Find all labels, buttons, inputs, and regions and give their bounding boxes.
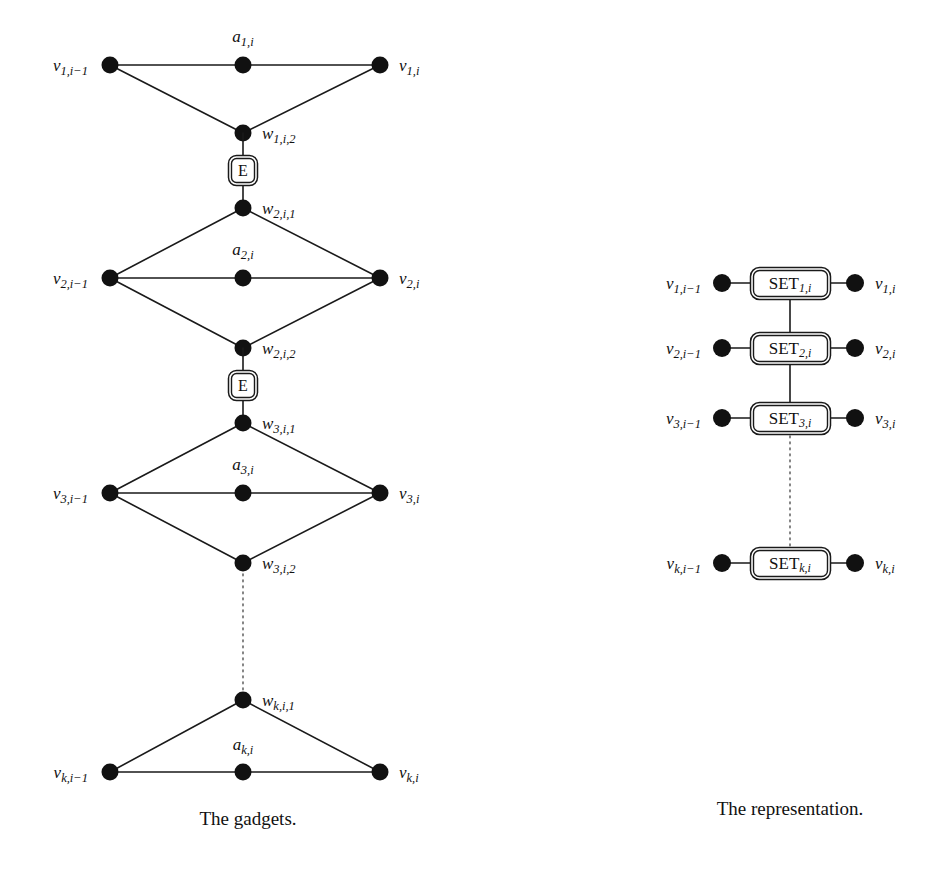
e-box-1-label: E	[238, 162, 248, 179]
label-w-3-i-2: w3,i,2	[262, 554, 296, 576]
node-v-3-iprev[interactable]	[102, 485, 119, 502]
edge-v2-w2i2	[243, 278, 380, 348]
label-rep-v-k-i: vk,i	[875, 554, 895, 576]
label-rep-v-1-i: v1,i	[875, 274, 896, 296]
edge-v3-w3i2	[243, 493, 380, 563]
edge-w2i1-v2	[243, 208, 380, 278]
edge-w2i1-v2prev	[110, 208, 243, 278]
node-rep-v-1-i[interactable]	[846, 274, 864, 292]
node-rep-v-2-iprev[interactable]	[713, 339, 731, 357]
caption-representation: The representation.	[717, 798, 864, 819]
node-a-k-i[interactable]	[235, 764, 252, 781]
node-w-k-i-1[interactable]	[235, 692, 252, 709]
label-rep-v-2-i: v2,i	[875, 339, 896, 361]
node-rep-v-1-iprev[interactable]	[713, 274, 731, 292]
set-row-1: SET1,i v1,i−1 v1,i	[666, 268, 896, 300]
node-a-1-i[interactable]	[235, 57, 252, 74]
label-rep-v-3-iprev: v3,i−1	[666, 409, 701, 431]
label-w-k-i-1: wk,i,1	[262, 691, 295, 713]
label-a-1-i: a1,i	[232, 27, 254, 49]
label-v-k-i: vk,i	[399, 763, 419, 785]
set-row-2: SET2,i v2,i−1 v2,i	[666, 333, 896, 365]
node-v-1-i[interactable]	[372, 57, 389, 74]
label-v-1-iprev: v1,i−1	[53, 56, 88, 78]
edge-v1prev-w112	[110, 65, 243, 133]
node-v-2-i[interactable]	[372, 270, 389, 287]
label-w-3-i-1: w3,i,1	[262, 414, 296, 436]
label-v-k-iprev: vk,i−1	[54, 763, 88, 785]
label-rep-v-2-iprev: v2,i−1	[666, 339, 701, 361]
edge-v1-w112	[243, 65, 380, 133]
edge-w3i1-v3	[243, 423, 380, 493]
label-w-1-i-2: w1,i,2	[262, 124, 296, 146]
label-v-2-iprev: v2,i−1	[53, 269, 88, 291]
node-v-k-i[interactable]	[372, 764, 389, 781]
label-v-3-i: v3,i	[399, 484, 420, 506]
e-box-2[interactable]: E	[229, 348, 258, 423]
caption-gadgets: The gadgets.	[199, 808, 296, 829]
label-v-2-i: v2,i	[399, 269, 420, 291]
label-a-2-i: a2,i	[232, 240, 254, 262]
gadget-1: v1,i−1 v1,i a1,i w1,i,2	[53, 27, 420, 146]
gadget-k: wk,i,1 vk,i−1 vk,i ak,i	[54, 691, 420, 785]
label-rep-v-1-iprev: v1,i−1	[666, 274, 701, 296]
label-a-3-i: a3,i	[232, 455, 254, 477]
node-v-3-i[interactable]	[372, 485, 389, 502]
node-rep-v-2-i[interactable]	[846, 339, 864, 357]
label-w-2-i-2: w2,i,2	[262, 339, 296, 361]
set-row-k: SETk,i vk,i−1 vk,i	[667, 548, 896, 580]
label-w-2-i-1: w2,i,1	[262, 199, 296, 221]
node-v-k-iprev[interactable]	[102, 764, 119, 781]
gadget-3: w3,i,1 v3,i−1 v3,i a3,i w3,i,2	[53, 414, 420, 576]
label-a-k-i: ak,i	[233, 735, 254, 757]
node-w-3-i-1[interactable]	[235, 415, 252, 432]
label-rep-v-k-iprev: vk,i−1	[667, 554, 701, 576]
label-v-1-i: v1,i	[399, 56, 420, 78]
edge-wki1-vk	[243, 700, 380, 772]
edge-v2prev-w2i2	[110, 278, 243, 348]
node-w-2-i-1[interactable]	[235, 200, 252, 217]
edge-wki1-vkprev	[110, 700, 243, 772]
gadget-2: w2,i,1 v2,i−1 v2,i a2,i w2,i,2	[53, 199, 420, 361]
label-v-3-iprev: v3,i−1	[53, 484, 88, 506]
figure-root: v1,i−1 v1,i a1,i w1,i,2 E	[0, 0, 943, 873]
node-rep-v-3-iprev[interactable]	[713, 409, 731, 427]
node-a-3-i[interactable]	[235, 485, 252, 502]
node-w-3-i-2[interactable]	[235, 555, 252, 572]
gadgets-panel: v1,i−1 v1,i a1,i w1,i,2 E	[53, 27, 420, 829]
node-v-2-iprev[interactable]	[102, 270, 119, 287]
e-box-1[interactable]: E	[229, 133, 258, 208]
edge-w3i1-v3prev	[110, 423, 243, 493]
representation-panel: SET1,i v1,i−1 v1,i SET2,i	[666, 268, 896, 820]
label-rep-v-3-i: v3,i	[875, 409, 896, 431]
e-box-2-label: E	[238, 377, 248, 394]
node-rep-v-k-iprev[interactable]	[713, 554, 731, 572]
set-row-3: SET3,i v3,i−1 v3,i	[666, 403, 896, 435]
node-v-1-iprev[interactable]	[102, 57, 119, 74]
node-rep-v-k-i[interactable]	[846, 554, 864, 572]
edge-v3prev-w3i2	[110, 493, 243, 563]
node-a-2-i[interactable]	[235, 270, 252, 287]
figure-canvas: v1,i−1 v1,i a1,i w1,i,2 E	[0, 0, 943, 873]
node-rep-v-3-i[interactable]	[846, 409, 864, 427]
